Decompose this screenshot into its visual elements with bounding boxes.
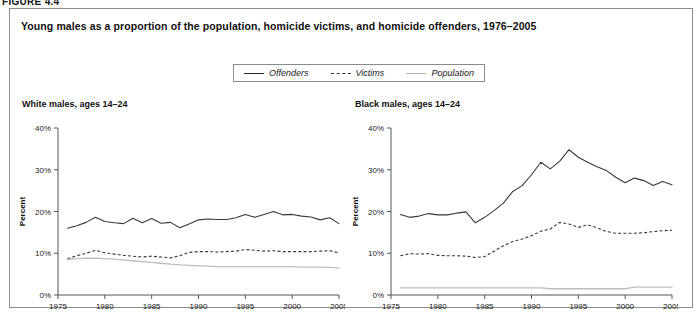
legend-item-victims: Victims bbox=[331, 68, 385, 78]
white-males-x-tick-label: 1990 bbox=[190, 302, 208, 310]
black-males-series-offenders bbox=[400, 150, 672, 223]
chart-black-males: 0%10%20%30%40%19751980198519901995200020… bbox=[348, 120, 678, 310]
white-males-x-tick-label: 1975 bbox=[49, 302, 67, 310]
legend-label-offenders: Offenders bbox=[269, 68, 309, 78]
legend-label-population: Population bbox=[431, 68, 474, 78]
white-males-y-tick-label: 0% bbox=[39, 291, 51, 300]
white-males-y-tick-label: 20% bbox=[35, 208, 51, 217]
white-males-series-offenders bbox=[67, 212, 339, 229]
chart-legend: Offenders Victims Population bbox=[233, 64, 485, 82]
black-males-y-tick-label: 0% bbox=[372, 291, 384, 300]
chart-white-males-svg: 0%10%20%30%40%19751980198519901995200020… bbox=[15, 120, 345, 310]
white-males-y-tick-label: 40% bbox=[35, 124, 51, 133]
panel-title-black-males: Black males, ages 14–24 bbox=[355, 99, 460, 109]
black-males-x-tick-label: 1985 bbox=[476, 302, 494, 310]
legend-swatch-offenders-icon bbox=[244, 73, 264, 74]
black-males-series-population bbox=[400, 287, 672, 289]
chart-white-males: 0%10%20%30%40%19751980198519901995200020… bbox=[15, 120, 345, 310]
figure-label: FIGURE 4.4 bbox=[2, 0, 59, 7]
black-males-x-tick-label: 1995 bbox=[569, 302, 587, 310]
black-males-y-tick-label: 30% bbox=[368, 166, 384, 175]
legend-item-population: Population bbox=[406, 68, 474, 78]
black-males-x-tick-label: 2000 bbox=[616, 302, 634, 310]
white-males-x-tick-label: 2005 bbox=[330, 302, 345, 310]
white-males-x-tick-label: 2000 bbox=[283, 302, 301, 310]
black-males-y-tick-label: 10% bbox=[368, 249, 384, 258]
chart-black-males-svg: 0%10%20%30%40%19751980198519901995200020… bbox=[348, 120, 678, 310]
black-males-x-tick-label: 1980 bbox=[429, 302, 447, 310]
legend-swatch-victims-icon bbox=[331, 73, 351, 74]
black-males-y-tick-label: 40% bbox=[368, 124, 384, 133]
black-males-series-victims bbox=[400, 222, 672, 257]
white-males-x-tick-label: 1985 bbox=[143, 302, 161, 310]
panel-title-white-males: White males, ages 14–24 bbox=[22, 99, 128, 109]
legend-label-victims: Victims bbox=[356, 68, 385, 78]
black-males-x-tick-label: 1975 bbox=[382, 302, 400, 310]
white-males-x-tick-label: 1980 bbox=[96, 302, 114, 310]
black-males-x-tick-label: 1990 bbox=[523, 302, 541, 310]
legend-swatch-population-icon bbox=[406, 73, 426, 74]
black-males-y-tick-label: 20% bbox=[368, 208, 384, 217]
figure-title: Young males as a proportion of the popul… bbox=[21, 20, 536, 32]
black-males-y-axis-title: Percent bbox=[351, 196, 360, 226]
white-males-series-victims bbox=[67, 249, 339, 258]
white-males-y-tick-label: 30% bbox=[35, 166, 51, 175]
white-males-y-tick-label: 10% bbox=[35, 249, 51, 258]
white-males-series-population bbox=[67, 258, 339, 268]
white-males-y-axis-title: Percent bbox=[18, 196, 27, 226]
black-males-x-tick-label: 2005 bbox=[663, 302, 678, 310]
legend-item-offenders: Offenders bbox=[244, 68, 309, 78]
white-males-x-tick-label: 1995 bbox=[236, 302, 254, 310]
